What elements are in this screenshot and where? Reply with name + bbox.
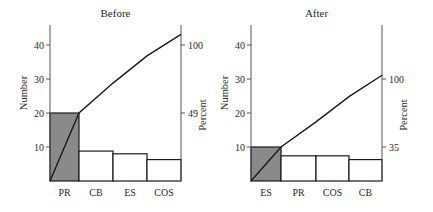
- y-tick-label: 40: [235, 40, 245, 51]
- y-axis-label: Number: [219, 75, 230, 110]
- x-tick-label: ES: [124, 187, 136, 198]
- after-chart: AfterESPRCOSCB1020304035100NumberPercent: [219, 7, 409, 198]
- bar-cos: [316, 156, 349, 181]
- y2-tick-label: 35: [389, 142, 399, 153]
- chart-title: Before: [101, 7, 131, 19]
- y-tick-label: 20: [235, 108, 245, 119]
- y-axis-label: Number: [18, 75, 29, 110]
- chart-title: After: [305, 7, 329, 19]
- y2-axis-label: Percent: [197, 99, 208, 131]
- bar-es: [113, 154, 147, 181]
- y2-tick-label: 100: [389, 74, 404, 85]
- y2-tick-label: 100: [188, 40, 203, 51]
- bar-pr: [281, 156, 316, 181]
- y-tick-label: 20: [34, 108, 44, 119]
- bar-cb: [349, 160, 382, 181]
- pareto-charts: BeforePRCBESCOS1020304049100NumberPercen…: [0, 0, 433, 212]
- x-tick-label: COS: [154, 187, 173, 198]
- y-tick-label: 30: [235, 74, 245, 85]
- y-tick-label: 30: [34, 74, 44, 85]
- x-tick-label: PR: [292, 187, 305, 198]
- y-tick-label: 10: [235, 142, 245, 153]
- y2-axis-label: Percent: [398, 99, 409, 131]
- y-tick-label: 10: [34, 142, 44, 153]
- bar-cb: [79, 151, 113, 181]
- before-chart: BeforePRCBESCOS1020304049100NumberPercen…: [18, 7, 208, 198]
- x-tick-label: ES: [260, 187, 272, 198]
- y-tick-label: 40: [34, 40, 44, 51]
- x-tick-label: COS: [323, 187, 342, 198]
- x-tick-label: PR: [58, 187, 71, 198]
- bar-cos: [147, 160, 181, 181]
- x-tick-label: CB: [89, 187, 103, 198]
- x-tick-label: CB: [359, 187, 373, 198]
